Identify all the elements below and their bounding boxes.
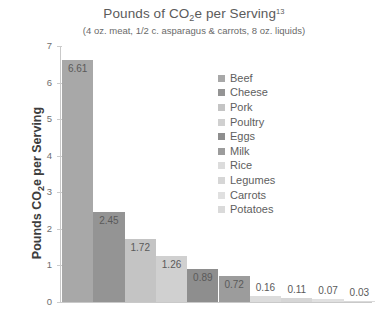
chart-legend: BeefCheesePorkPoultryEggsMilkRiceLegumes… xyxy=(218,71,275,217)
legend-item-label: Beef xyxy=(230,73,253,84)
legend-item: Poultry xyxy=(218,115,275,130)
bar-value-label: 0.72 xyxy=(219,280,250,290)
legend-item: Pork xyxy=(218,100,275,115)
legend-item: Eggs xyxy=(218,129,275,144)
legend-item: Beef xyxy=(218,71,275,86)
chart-subtitle: (4 oz. meat, 1/2 c. asparagus & carrots,… xyxy=(0,25,388,36)
chart-title-footnote-superscript: 13 xyxy=(276,7,285,16)
y-axis-tick-label: 1 xyxy=(26,260,52,270)
bar xyxy=(281,298,312,302)
legend-item: Milk xyxy=(218,144,275,159)
legend-item: Cheese xyxy=(218,86,275,101)
bar-value-label: 0.11 xyxy=(281,285,312,295)
bar-value-label: 0.16 xyxy=(250,283,281,293)
bar-value-label: 1.26 xyxy=(156,260,187,270)
y-axis-tick-label: 2 xyxy=(26,224,52,234)
y-axis-tick-label: 5 xyxy=(26,114,52,124)
legend-item-label: Milk xyxy=(230,146,250,157)
bar-value-label: 0.07 xyxy=(312,286,343,296)
legend-swatch-icon xyxy=(218,162,225,169)
legend-swatch-icon xyxy=(218,206,225,213)
legend-item: Potatoes xyxy=(218,202,275,217)
legend-swatch-icon xyxy=(218,104,225,111)
bar xyxy=(312,299,343,302)
legend-item: Carrots xyxy=(218,188,275,203)
bar xyxy=(344,301,375,302)
bar-value-label: 0.03 xyxy=(344,288,375,298)
plot-area: 6.612.451.721.260.890.720.160.110.070.03 xyxy=(62,46,372,302)
y-axis-tick-label: 7 xyxy=(26,41,52,51)
legend-item: Legumes xyxy=(218,173,275,188)
legend-swatch-icon xyxy=(218,177,225,184)
legend-item-label: Eggs xyxy=(230,131,255,142)
x-axis-line xyxy=(60,302,372,303)
legend-swatch-icon xyxy=(218,133,225,140)
y-axis-tick-label: 4 xyxy=(26,151,52,161)
y-axis-tick-label: 6 xyxy=(26,78,52,88)
chart-title: Pounds of CO2e per Serving13 xyxy=(0,6,388,23)
bar-value-label: 2.45 xyxy=(93,216,124,226)
y-axis-tick xyxy=(57,302,62,303)
legend-item: Rice xyxy=(218,159,275,174)
legend-item-label: Cheese xyxy=(230,87,268,98)
bar-value-label: 1.72 xyxy=(125,243,156,253)
chart-title-text-after: e per Serving xyxy=(194,6,276,21)
legend-item-label: Poultry xyxy=(230,117,264,128)
bar-value-label: 6.61 xyxy=(62,64,93,74)
chart-title-text-before: Pounds of CO xyxy=(103,6,189,21)
legend-item-label: Legumes xyxy=(230,175,275,186)
y-axis-tick-label: 0 xyxy=(26,297,52,307)
legend-swatch-icon xyxy=(218,75,225,82)
y-axis-title: Pounds CO2e per Serving xyxy=(30,83,46,283)
bar xyxy=(62,60,93,302)
bar-value-label: 0.89 xyxy=(187,273,218,283)
legend-swatch-icon xyxy=(218,89,225,96)
legend-swatch-icon xyxy=(218,119,225,126)
y-axis-tick-label: 3 xyxy=(26,187,52,197)
bar xyxy=(250,296,281,302)
legend-swatch-icon xyxy=(218,148,225,155)
legend-item-label: Rice xyxy=(230,160,252,171)
legend-item-label: Carrots xyxy=(230,190,266,201)
legend-swatch-icon xyxy=(218,192,225,199)
legend-item-label: Pork xyxy=(230,102,253,113)
chart-container: Pounds of CO2e per Serving13 (4 oz. meat… xyxy=(0,0,388,319)
legend-item-label: Potatoes xyxy=(230,204,273,215)
